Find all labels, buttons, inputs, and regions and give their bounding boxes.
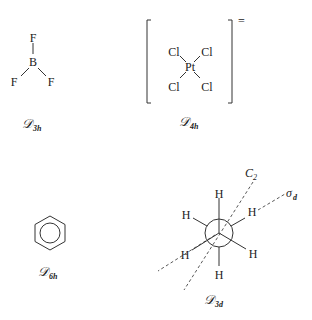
atom-cl-br: Cl xyxy=(201,80,213,94)
bracket-left xyxy=(147,20,151,103)
bf3-molecule: F B F F 𝒟 3h xyxy=(11,31,55,133)
charge-label: = xyxy=(238,14,245,28)
atom-h-bottom: H xyxy=(215,268,224,282)
atom-h-upper-left: H xyxy=(182,208,191,222)
bracket-right xyxy=(228,20,232,103)
bond-b-f-left xyxy=(21,68,29,76)
atom-h-lower-left: H xyxy=(181,248,190,262)
sigma-d-label: σ d xyxy=(286,186,298,202)
atom-f-right: F xyxy=(48,75,55,89)
atom-b: B xyxy=(29,55,37,69)
atom-cl-tl: Cl xyxy=(168,45,180,59)
benzene-aromatic-ring xyxy=(40,223,60,243)
back-bond-upper-right xyxy=(231,218,245,226)
sigma-label-subscript: d xyxy=(293,193,298,202)
bond-b-f-right xyxy=(38,68,46,76)
ethane-newman-projection: H H H H H H C 2 σ d 𝒟 3d xyxy=(158,166,298,309)
ptcl4-complex: = Cl Cl Pt Cl Cl 𝒟 4h xyxy=(147,14,245,131)
back-bond-upper-left xyxy=(193,218,207,226)
sigma-d-plane-line-upper xyxy=(258,194,285,210)
point-group-subscript: 6h xyxy=(49,272,58,281)
atom-h-upper-right: H xyxy=(248,205,257,219)
atom-f-left: F xyxy=(11,75,18,89)
point-group-subscript: 3h xyxy=(32,124,42,133)
c2-label-subscript: 2 xyxy=(253,173,257,182)
c2-axis-label: C 2 xyxy=(245,166,257,182)
point-group-subscript: 3d xyxy=(214,300,224,309)
point-group-label-d3d: 𝒟 3d xyxy=(204,292,224,309)
point-group-label-d3h: 𝒟 3h xyxy=(22,116,42,133)
point-group-label-d6h: 𝒟 6h xyxy=(38,264,58,281)
sigma-label-main: σ xyxy=(286,186,293,200)
atom-f-top: F xyxy=(30,31,37,45)
point-group-subscript: 4h xyxy=(189,122,199,131)
atom-pt: Pt xyxy=(185,60,196,74)
benzene-molecule: 𝒟 6h xyxy=(35,216,65,281)
point-group-label-d4h: 𝒟 4h xyxy=(179,114,199,131)
atom-h-top: H xyxy=(215,187,224,201)
atom-h-lower-right: H xyxy=(249,247,258,261)
point-group-diagram: F B F F 𝒟 3h = Cl Cl Pt Cl Cl 𝒟 4h 𝒟 xyxy=(0,0,312,320)
atom-cl-bl: Cl xyxy=(168,80,180,94)
atom-cl-tr: Cl xyxy=(201,45,213,59)
